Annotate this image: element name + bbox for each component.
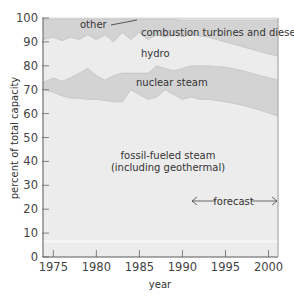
y-axis-title: percent of total capacity xyxy=(9,77,20,200)
x-tick-label: 1975 xyxy=(39,260,68,274)
y-tick-label: 10 xyxy=(23,226,38,240)
y-tick-label: 60 xyxy=(23,107,38,121)
x-tick-label: 1985 xyxy=(125,260,154,274)
label-fossil-line2: (including geothermal) xyxy=(111,162,225,173)
label-other: other xyxy=(80,19,108,30)
y-tick-label: 20 xyxy=(23,202,38,216)
x-tick-label: 2000 xyxy=(254,260,283,274)
x-axis-title: year xyxy=(149,279,172,290)
y-tick-label: 50 xyxy=(23,131,38,145)
label-combustion: combustion turbines and diesel xyxy=(141,27,294,38)
y-tick-label: 70 xyxy=(23,83,38,97)
y-tick-label: 40 xyxy=(23,154,38,168)
y-tick-label: 90 xyxy=(23,35,38,49)
label-nuclear: nuclear steam xyxy=(136,77,208,88)
y-tick-label: 30 xyxy=(23,178,38,192)
x-tick-label: 1980 xyxy=(82,260,111,274)
label-fossil-line1: fossil-fueled steam xyxy=(121,150,216,161)
y-tick-label: 0 xyxy=(31,250,38,264)
label-forecast: forecast xyxy=(213,196,254,207)
label-hydro: hydro xyxy=(141,48,170,59)
y-tick-label: 100 xyxy=(16,11,38,25)
stacked-area-chart: 0102030405060708090100197519801985199019… xyxy=(0,0,294,300)
band-fossil-fueled xyxy=(43,90,278,257)
x-tick-label: 1995 xyxy=(211,260,240,274)
x-tick-label: 1990 xyxy=(168,260,197,274)
y-tick-label: 80 xyxy=(23,59,38,73)
